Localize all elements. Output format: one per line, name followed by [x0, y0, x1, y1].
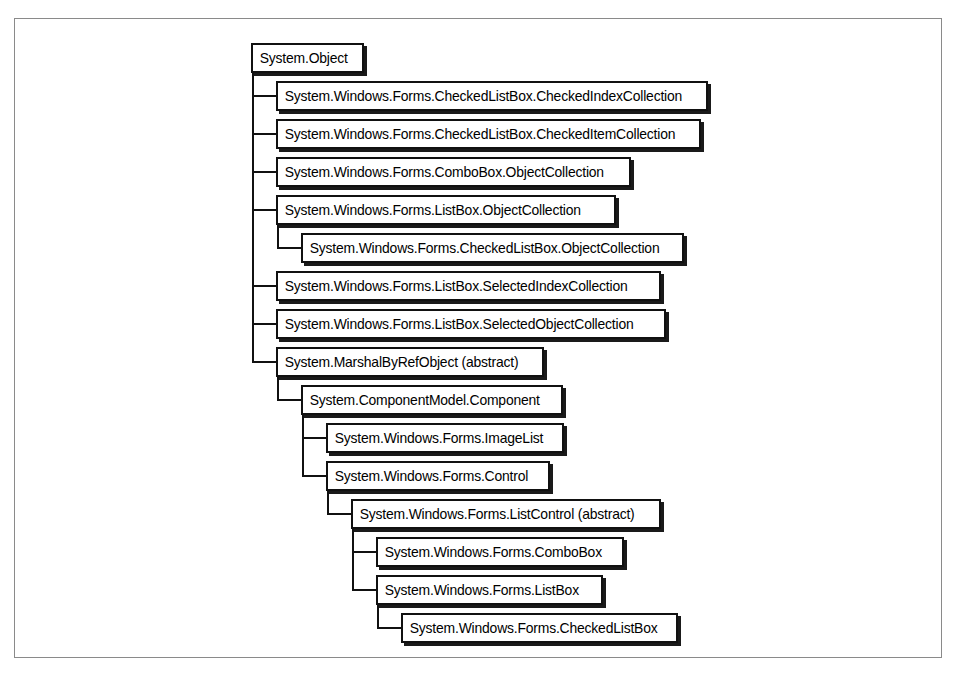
- connector-system-object-to-checkedlistbox-checkedindexcollection: [253, 73, 276, 96]
- class-node-listcontrol[interactable]: System.Windows.Forms.ListControl (abstra…: [351, 499, 661, 529]
- class-node-listbox-selectedindexcollection[interactable]: System.Windows.Forms.ListBox.SelectedInd…: [276, 271, 661, 301]
- figure-frame: System.ObjectSystem.Windows.Forms.Checke…: [14, 18, 942, 658]
- connector-system-object-to-marshalbyrefobject: [253, 73, 276, 362]
- connector-system-object-to-listbox-objectcollection: [253, 73, 276, 210]
- class-node-checkedlistbox-checkeditemcollection[interactable]: System.Windows.Forms.CheckedListBox.Chec…: [276, 119, 701, 149]
- class-node-checkedlistbox-checkedindexcollection[interactable]: System.Windows.Forms.CheckedListBox.Chec…: [276, 81, 708, 111]
- class-node-componentmodel-component[interactable]: System.ComponentModel.Component: [301, 385, 563, 415]
- class-node-marshalbyrefobject[interactable]: System.MarshalByRefObject (abstract): [276, 347, 544, 377]
- class-node-combobox[interactable]: System.Windows.Forms.ComboBox: [376, 537, 624, 567]
- class-node-label: System.Windows.Forms.CheckedListBox.Chec…: [278, 121, 682, 147]
- connector-componentmodel-component-to-control: [303, 415, 326, 476]
- connector-componentmodel-component-to-imagelist: [303, 415, 326, 438]
- connector-listbox-to-checkedlistbox: [378, 605, 401, 628]
- connector-system-object-to-combobox-objectcollection: [253, 73, 276, 172]
- class-node-label: System.Windows.Forms.ListControl (abstra…: [353, 501, 641, 527]
- connector-system-object-to-checkedlistbox-checkeditemcollection: [253, 73, 276, 134]
- class-node-listbox-selectedobjectcollection[interactable]: System.Windows.Forms.ListBox.SelectedObj…: [276, 309, 666, 339]
- class-node-label: System.Windows.Forms.ImageList: [328, 425, 550, 451]
- class-node-label: System.Windows.Forms.ListBox.SelectedObj…: [278, 311, 640, 337]
- connector-marshalbyrefobject-to-componentmodel-component: [278, 377, 301, 400]
- connector-system-object-to-listbox-selectedobjectcollection: [253, 73, 276, 324]
- class-node-label: System.MarshalByRefObject (abstract): [278, 349, 525, 375]
- class-node-listbox-objectcollection[interactable]: System.Windows.Forms.ListBox.ObjectColle…: [276, 195, 616, 225]
- connector-listcontrol-to-listbox: [353, 529, 376, 590]
- class-node-label: System.Windows.Forms.ComboBox: [378, 539, 609, 565]
- class-node-label: System.Windows.Forms.CheckedListBox: [403, 615, 664, 641]
- class-hierarchy-diagram: System.ObjectSystem.Windows.Forms.Checke…: [15, 19, 943, 659]
- connector-control-to-listcontrol: [328, 491, 351, 514]
- class-node-control[interactable]: System.Windows.Forms.Control: [326, 461, 550, 491]
- class-node-label: System.Windows.Forms.ListBox: [378, 577, 586, 603]
- class-node-listbox[interactable]: System.Windows.Forms.ListBox: [376, 575, 603, 605]
- class-node-checkedlistbox[interactable]: System.Windows.Forms.CheckedListBox: [401, 613, 678, 643]
- class-node-label: System.Object: [253, 45, 354, 71]
- class-node-label: System.Windows.Forms.CheckedListBox.Obje…: [303, 235, 666, 261]
- class-node-combobox-objectcollection[interactable]: System.Windows.Forms.ComboBox.ObjectColl…: [276, 157, 631, 187]
- class-node-label: System.ComponentModel.Component: [303, 387, 546, 413]
- class-node-label: System.Windows.Forms.ListBox.ObjectColle…: [278, 197, 588, 223]
- class-node-checkedlistbox-objectcollection[interactable]: System.Windows.Forms.CheckedListBox.Obje…: [301, 233, 684, 263]
- connector-system-object-to-listbox-selectedindexcollection: [253, 73, 276, 286]
- class-node-system-object[interactable]: System.Object: [251, 43, 364, 73]
- class-node-label: System.Windows.Forms.Control: [328, 463, 535, 489]
- class-node-label: System.Windows.Forms.CheckedListBox.Chec…: [278, 83, 689, 109]
- connector-listcontrol-to-combobox: [353, 529, 376, 552]
- class-node-label: System.Windows.Forms.ComboBox.ObjectColl…: [278, 159, 611, 185]
- class-node-label: System.Windows.Forms.ListBox.SelectedInd…: [278, 273, 634, 299]
- class-node-imagelist[interactable]: System.Windows.Forms.ImageList: [326, 423, 564, 453]
- connector-listbox-objectcollection-to-checkedlistbox-objectcollection: [278, 225, 301, 248]
